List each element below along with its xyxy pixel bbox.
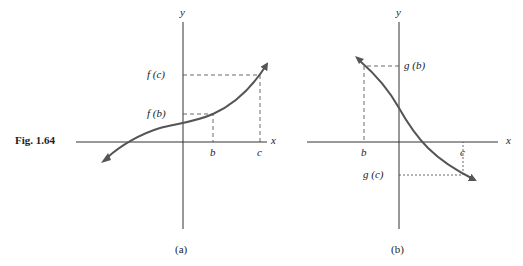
tick-c-b: c — [460, 146, 465, 158]
tick-fc: f (c) — [147, 68, 165, 80]
x-axis-label-b: x — [506, 134, 511, 146]
figure-graphics — [0, 0, 523, 266]
guide-gc — [399, 142, 463, 175]
tick-fb: f (b) — [147, 107, 166, 119]
caption-a: (a) — [175, 243, 187, 255]
panel-a — [76, 22, 267, 229]
panel-b — [307, 22, 498, 229]
tick-gc: g (c) — [363, 168, 383, 180]
tick-c-a: c — [257, 146, 262, 158]
tick-gb: g (b) — [404, 59, 425, 71]
guide-gb — [364, 66, 399, 142]
y-axis-label-a: y — [180, 6, 185, 18]
tick-b-b: b — [361, 146, 367, 158]
x-axis-label-a: x — [271, 134, 276, 146]
guide-fc — [183, 75, 260, 142]
y-axis-label-b: y — [396, 6, 401, 18]
curve-g — [360, 61, 475, 180]
tick-b-a: b — [210, 146, 216, 158]
curve-f — [108, 64, 267, 157]
caption-b: (b) — [391, 243, 404, 255]
